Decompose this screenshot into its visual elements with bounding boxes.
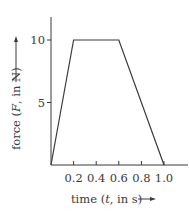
x-tick-label: 0.8 bbox=[132, 171, 150, 185]
x-tick-label: 0.6 bbox=[110, 171, 128, 185]
axes bbox=[51, 17, 188, 165]
x-axis-arrow-icon bbox=[150, 197, 156, 201]
y-tick-label: 5 bbox=[38, 96, 45, 110]
x-tick-label: 1.0 bbox=[155, 171, 173, 185]
x-axis-label-group: time (t, in s) bbox=[71, 192, 156, 206]
x-tick-label: 0.4 bbox=[87, 171, 105, 185]
force-time-chart: 510 0.20.40.60.81.0 force (F, in N) time… bbox=[0, 0, 189, 218]
y-axis-label-group: force (F, in N) bbox=[9, 36, 23, 150]
y-tick-label: 10 bbox=[30, 33, 45, 47]
x-tick-label: 0.2 bbox=[64, 171, 82, 185]
force-series-line bbox=[51, 40, 164, 165]
y-axis-arrow-icon bbox=[14, 36, 18, 42]
x-axis-label: time (t, in s) bbox=[71, 192, 142, 206]
y-ticks: 510 bbox=[30, 33, 51, 110]
